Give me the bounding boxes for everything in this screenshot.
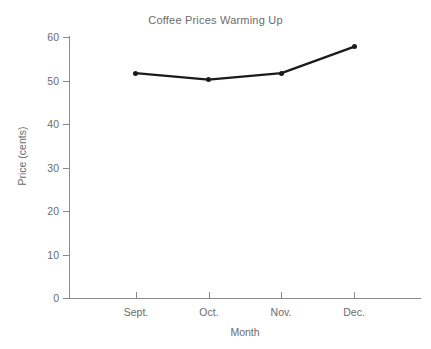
y-tick-label: 50 xyxy=(19,76,59,87)
data-point-sept xyxy=(133,71,138,76)
chart-title: Coffee Prices Warming Up xyxy=(0,14,431,26)
y-tick-0 xyxy=(63,298,70,299)
y-tick-40 xyxy=(63,124,70,125)
y-tick-label: 10 xyxy=(19,250,59,261)
data-point-dec xyxy=(352,44,357,49)
y-tick-60 xyxy=(63,37,70,38)
data-point-oct xyxy=(206,77,211,82)
x-tick-oct xyxy=(209,292,210,299)
y-tick-10 xyxy=(63,255,70,256)
x-axis-title: Month xyxy=(70,326,420,338)
x-tick-label: Nov. xyxy=(246,307,316,318)
chart-figure: Coffee Prices Warming Up 0102030405060 S… xyxy=(0,0,431,349)
data-point-nov xyxy=(279,71,284,76)
x-tick-label: Sept. xyxy=(101,307,171,318)
x-tick-nov xyxy=(281,292,282,299)
x-tick-label: Dec. xyxy=(319,307,389,318)
y-tick-20 xyxy=(63,211,70,212)
y-tick-label: 20 xyxy=(19,206,59,217)
line-series xyxy=(0,0,431,349)
y-tick-50 xyxy=(63,81,70,82)
x-tick-dec xyxy=(354,292,355,299)
x-tick-sept xyxy=(136,292,137,299)
y-tick-label: 60 xyxy=(19,32,59,43)
y-axis-title: Price (cents) xyxy=(16,106,28,206)
y-tick-30 xyxy=(63,168,70,169)
x-tick-label: Oct. xyxy=(174,307,244,318)
y-tick-label: 0 xyxy=(19,293,59,304)
x-axis-spine xyxy=(69,298,421,299)
